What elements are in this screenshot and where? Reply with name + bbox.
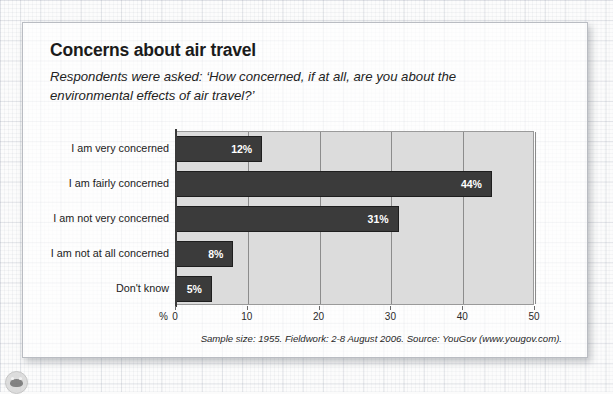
gridline: [535, 132, 536, 304]
x-axis-tick-mark: [390, 306, 391, 310]
bar-row: 31%: [176, 206, 535, 232]
chart-card: Concerns about air travel Respondents we…: [22, 22, 588, 358]
bar: 8%: [176, 241, 233, 267]
circular-emblem-icon: [5, 371, 28, 394]
x-axis-tick-label: 0: [172, 311, 178, 322]
y-axis-line: [175, 129, 177, 307]
category-axis-labels: I am very concernedI am fairly concerned…: [23, 131, 169, 305]
bar-row: 44%: [176, 171, 535, 197]
category-label: I am not very concerned: [23, 212, 169, 224]
bar-value-label: 8%: [208, 248, 232, 260]
x-axis-tick-label: 10: [241, 311, 252, 322]
bar-value-label: 31%: [368, 213, 398, 225]
bar-row: 12%: [176, 136, 535, 162]
category-label: I am not at all concerned: [23, 247, 169, 259]
x-axis-tick-label: 50: [528, 311, 539, 322]
bar-row: 5%: [176, 276, 535, 302]
bar-row: 8%: [176, 241, 535, 267]
chart-footnote: Sample size: 1955. Fieldwork: 2-8 August…: [201, 333, 562, 344]
category-label: I am very concerned: [23, 142, 169, 154]
x-axis-tick-label: 30: [385, 311, 396, 322]
bar: 5%: [176, 276, 212, 302]
category-label: I am fairly concerned: [23, 177, 169, 189]
bar-value-label: 5%: [187, 283, 211, 295]
plot-area: 12%44%31%8%5%: [175, 131, 534, 305]
bar-value-label: 12%: [231, 143, 261, 155]
x-axis-tick-mark: [462, 306, 463, 310]
x-axis-tick-label: 40: [457, 311, 468, 322]
bar: 44%: [176, 171, 492, 197]
bar: 31%: [176, 206, 399, 232]
bar-value-label: 44%: [461, 178, 491, 190]
x-axis-tick-mark: [319, 306, 320, 310]
x-axis-tick-mark: [247, 306, 248, 310]
bar: 12%: [176, 136, 262, 162]
x-axis-tick-mark: [534, 306, 535, 310]
x-axis-unit-label: %: [159, 311, 168, 322]
chart-plot: 12%44%31%8%5% I am very concernedI am fa…: [23, 23, 589, 359]
x-axis-tick-mark: [175, 306, 176, 310]
category-label: Don't know: [23, 282, 169, 294]
x-axis-tick-label: 20: [313, 311, 324, 322]
